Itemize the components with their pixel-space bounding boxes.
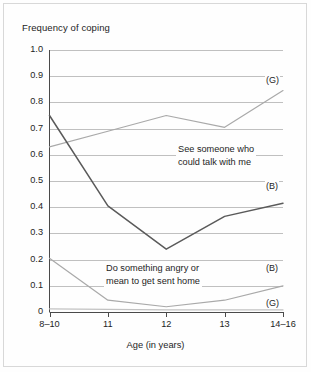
x-tick-label: 12	[161, 319, 171, 329]
series-tag-girls-low: (G)	[265, 298, 280, 308]
x-tick-label: 13	[220, 319, 230, 329]
y-tick-label: 0.7	[19, 123, 43, 133]
series-tag-boys-mid: (B)	[265, 181, 279, 191]
annotation-see-someone-line1: See someone who	[178, 143, 254, 156]
y-tick-label: 0.8	[19, 96, 43, 106]
series-tag-boys-low: (B)	[265, 263, 279, 273]
annotation-do-something: Do something angry or mean to get sent h…	[104, 262, 202, 287]
y-tick-label: 0	[19, 306, 43, 316]
y-tick-label: 0.5	[19, 175, 43, 185]
annotation-do-something-line1: Do something angry or	[106, 262, 200, 275]
series-tag-girls-top: (G)	[265, 75, 280, 85]
annotation-see-someone: See someone who could talk with me	[176, 143, 256, 168]
x-tick-label: 8–10	[39, 319, 59, 329]
annotation-see-someone-line2: could talk with me	[178, 156, 254, 169]
series-line	[50, 116, 284, 250]
y-tick-label: 0.1	[19, 280, 43, 290]
y-tick-label: 0.3	[19, 227, 43, 237]
y-tick-label: 1.0	[19, 44, 43, 54]
x-axis-label: Age (in years)	[0, 340, 311, 350]
y-tick-label: 0.9	[19, 70, 43, 80]
y-tick-label: 0.4	[19, 201, 43, 211]
annotation-do-something-line2: mean to get sent home	[106, 275, 200, 288]
y-tick-label: 0.6	[19, 149, 43, 159]
series-line	[50, 91, 284, 147]
y-tick-label: 0.2	[19, 254, 43, 264]
x-tick-label: 11	[103, 319, 113, 329]
series-line	[50, 309, 284, 310]
x-tick-label: 14–16	[270, 319, 296, 329]
chart-figure: Frequency of coping 1.00.90.80.70.60.50.…	[0, 0, 311, 372]
